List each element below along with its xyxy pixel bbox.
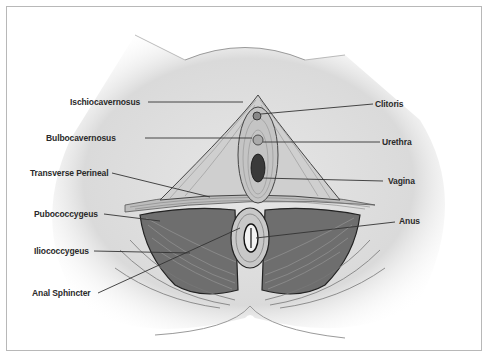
label-ischiocavernosus: Ischiocavernosus <box>70 97 140 107</box>
clitoris-structure <box>253 112 261 120</box>
label-urethra: Urethra <box>382 137 412 147</box>
label-anus: Anus <box>399 216 420 226</box>
label-bulbocavernosus: Bulbocavernosus <box>46 133 116 143</box>
pelvic-floor-illustration <box>0 0 489 358</box>
label-vagina: Vagina <box>388 176 415 186</box>
label-anal-sphincter: Anal Sphincter <box>32 288 91 298</box>
label-iliococcygeus: Iliococcygeus <box>34 246 89 256</box>
label-transverse-perineal: Transverse Perineal <box>30 168 108 178</box>
label-clitoris: Clitoris <box>375 99 403 109</box>
urethra-structure <box>253 135 263 145</box>
label-pubococcygeus: Pubococcygeus <box>34 209 98 219</box>
